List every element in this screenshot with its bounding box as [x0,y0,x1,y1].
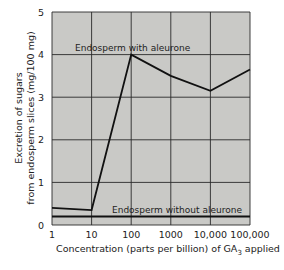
y-axis-ticks: 012345 [38,7,44,231]
x-axis-ticks: 110100100010,000100,000 [49,229,270,240]
x-tick-label: 100,000 [230,229,269,240]
x-tick-label: 1000 [159,229,183,240]
x-tick-label: 10 [86,229,98,240]
x-tick-label: 10,000 [194,229,227,240]
y-tick-label: 3 [38,92,44,103]
svg-text:from endosperm slices (mg/100: from endosperm slices (mg/100 mg) [25,31,36,204]
y-tick-label: 4 [38,49,44,60]
y-tick-label: 2 [38,134,44,145]
y-tick-label: 0 [38,220,44,231]
svg-text:Excretion of sugars: Excretion of sugars [13,72,24,163]
y-tick-label: 5 [38,7,44,18]
x-tick-label: 100 [122,229,140,240]
x-axis-label: Concentration (parts per billion) of GA3… [56,243,280,257]
annotation-with-aleurone: Endosperm with aleurone [75,43,191,53]
y-tick-label: 1 [38,177,44,188]
chart: 012345 110100100010,000100,000 Endosperm… [0,0,284,270]
annotation-without-aleurone: Endosperm without aleurone [112,205,242,215]
y-axis-label: Excretion of sugars from endosperm slice… [13,31,36,204]
x-tick-label: 1 [49,229,55,240]
